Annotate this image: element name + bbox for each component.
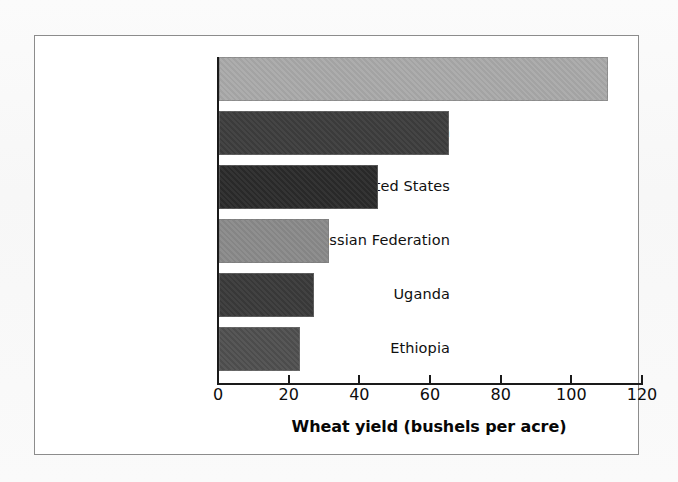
x-axis-tick [217, 375, 219, 384]
bar [219, 273, 314, 317]
x-axis-tick [570, 375, 572, 384]
x-axis-tick-label: 100 [556, 387, 587, 403]
x-axis-tick [288, 375, 290, 384]
category-label: Russian Federation [311, 233, 450, 248]
x-axis-tick [500, 375, 502, 384]
x-axis-tick-label: 20 [278, 387, 298, 403]
x-axis-tick-label: 40 [349, 387, 369, 403]
plot-area: FranceJapanUnited StatesRussian Federati… [35, 36, 638, 454]
x-axis-tick-label: 60 [420, 387, 440, 403]
bar [219, 219, 329, 263]
x-axis-tick-label: 0 [213, 387, 223, 403]
y-axis-line [217, 57, 219, 384]
x-axis-tick-label: 80 [490, 387, 510, 403]
chart-frame: FranceJapanUnited StatesRussian Federati… [34, 35, 639, 455]
x-axis-tick [429, 375, 431, 384]
category-label: Ethiopia [390, 341, 450, 356]
category-label: Uganda [393, 287, 450, 302]
x-axis-title: Wheat yield (bushels per acre) [217, 417, 641, 436]
bar [219, 57, 608, 101]
x-axis-tick-label: 120 [627, 387, 658, 403]
figure-root: FranceJapanUnited StatesRussian Federati… [0, 0, 678, 482]
x-axis-tick [358, 375, 360, 384]
bar [219, 327, 300, 371]
x-axis-tick [641, 375, 643, 384]
bar [219, 165, 378, 209]
bar [219, 111, 449, 155]
